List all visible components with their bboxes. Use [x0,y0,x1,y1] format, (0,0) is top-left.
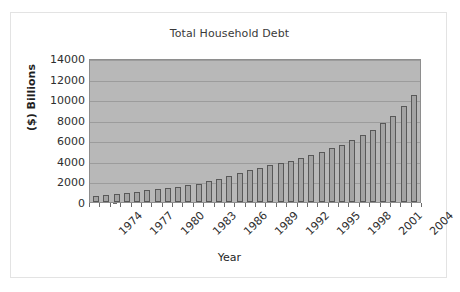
bar [298,158,304,202]
y-axis-tick-label: 14000 [39,53,85,66]
x-axis-tick [151,203,152,207]
bar [124,193,130,202]
bar [267,165,273,202]
x-axis-tick [328,203,329,207]
x-axis-tick [421,203,422,207]
plot-area [89,59,421,203]
x-axis-tick-label: 1992 [303,209,332,238]
x-axis-tick [369,203,370,207]
x-axis-tick-label: 1983 [210,209,239,238]
bar [247,170,253,202]
bar [196,184,202,203]
bar [278,163,284,202]
y-axis-tick-label: 4000 [39,155,85,168]
x-axis-tick-label: 1989 [272,209,301,238]
x-axis-tick [317,203,318,207]
bar [134,192,140,202]
x-axis-tick [286,203,287,207]
x-axis-tick [182,203,183,207]
bar [237,173,243,202]
bar [103,195,109,202]
bar [144,190,150,202]
x-axis-tick [380,203,381,207]
x-axis-tick [172,203,173,207]
x-axis-tick-label: 1995 [334,209,363,238]
x-axis-tick [224,203,225,207]
bar [349,140,355,202]
x-axis-tick [348,203,349,207]
x-axis-tick [400,203,401,207]
bar [329,148,335,202]
x-axis-tick-label: 1974 [116,209,145,238]
bar [390,116,396,202]
bar [93,196,99,202]
y-axis-tick-label: 0 [39,197,85,210]
bar [216,179,222,202]
x-axis-tick [214,203,215,207]
y-axis-title: ($) Billions [25,48,38,148]
x-axis-tick [245,203,246,207]
bar [165,188,171,202]
bar [257,168,263,202]
bar [401,106,407,202]
x-axis-tick-label: 2001 [397,209,426,238]
x-axis-tick [131,203,132,207]
y-axis-tick-label: 12000 [39,73,85,86]
chart-title: Total Household Debt [11,27,448,40]
bar [411,95,417,202]
y-axis-tick-label: 8000 [39,114,85,127]
y-axis-tick-label: 6000 [39,135,85,148]
x-axis-tick [193,203,194,207]
x-axis-tick-label: 1986 [241,209,270,238]
y-axis-tick-label: 10000 [39,94,85,107]
x-axis-tick [265,203,266,207]
bar [155,189,161,202]
x-axis-tick-label: 1980 [179,209,208,238]
bar [370,130,376,202]
x-axis-tick [359,203,360,207]
x-axis-tick-label: 1998 [365,209,394,238]
x-axis-tick [411,203,412,207]
bar [360,135,366,202]
x-axis-tick [89,203,90,207]
x-axis-title: Year [11,251,448,264]
x-axis-tick [297,203,298,207]
x-axis-tick [338,203,339,207]
bar [226,176,232,202]
x-axis-tick [307,203,308,207]
bar [175,187,181,202]
x-axis-tick-label: 1977 [148,209,177,238]
x-axis-tick [110,203,111,207]
x-axis-tick [276,203,277,207]
x-axis-tick [120,203,121,207]
x-axis-ticks [89,203,421,208]
bar [114,194,120,202]
x-axis-tick [234,203,235,207]
bar [319,152,325,202]
x-axis-tick [255,203,256,207]
bar [308,155,314,202]
bar [206,181,212,202]
y-axis-tick-label: 2000 [39,176,85,189]
bar [185,185,191,202]
x-axis-tick [203,203,204,207]
bar-series [90,60,420,202]
bar [288,161,294,202]
y-axis-tick-labels: 02000400060008000100001200014000 [39,53,85,209]
x-axis-tick [162,203,163,207]
chart-container: Total Household Debt ($) Billions 020004… [10,12,447,278]
x-axis-tick [141,203,142,207]
bar [380,123,386,202]
bar [339,145,345,202]
x-axis-tick [390,203,391,207]
x-axis-tick-labels: 1974197719801983198619891992199519982001… [89,209,421,257]
x-axis-tick-label: 2004 [428,209,457,238]
x-axis-tick [99,203,100,207]
